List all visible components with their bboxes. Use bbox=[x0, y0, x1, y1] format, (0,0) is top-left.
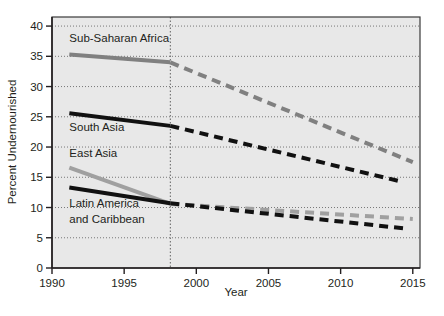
series-label-east-asia: East Asia bbox=[69, 147, 118, 159]
series-label-south-asia: South Asia bbox=[69, 121, 125, 133]
x-tick-label-2010: 2010 bbox=[328, 277, 354, 289]
y-tick-label-35: 35 bbox=[30, 50, 43, 62]
y-tick-label-0: 0 bbox=[37, 262, 43, 274]
y-tick-label-5: 5 bbox=[37, 232, 43, 244]
y-axis-title: Percent Undernourished bbox=[6, 80, 18, 205]
x-tick-label-2000: 2000 bbox=[184, 277, 210, 289]
y-tick-label-40: 40 bbox=[30, 20, 43, 32]
series-label-latin-america-and-caribbean-line2: and Caribbean bbox=[69, 213, 144, 225]
series-label-latin-america-and-caribbean-line1: Latin America bbox=[69, 197, 139, 209]
x-tick-label-2005: 2005 bbox=[256, 277, 282, 289]
x-axis-title: Year bbox=[224, 286, 247, 298]
y-tick-label-20: 20 bbox=[30, 141, 43, 153]
x-tick-label-2015: 2015 bbox=[400, 277, 426, 289]
x-tick-label-1995: 1995 bbox=[111, 277, 137, 289]
undernourishment-line-chart: 0510152025303540 19901995200020052010201… bbox=[0, 0, 444, 316]
y-tick-label-15: 15 bbox=[30, 171, 43, 183]
y-tick-label-10: 10 bbox=[30, 202, 43, 214]
x-tick-label-1990: 1990 bbox=[39, 277, 65, 289]
series-label-sub-saharan-africa: Sub-Saharan Africa bbox=[69, 32, 169, 44]
y-tick-label-25: 25 bbox=[30, 111, 43, 123]
y-tick-label-30: 30 bbox=[30, 81, 43, 93]
chart-figure: 0510152025303540 19901995200020052010201… bbox=[0, 0, 444, 316]
